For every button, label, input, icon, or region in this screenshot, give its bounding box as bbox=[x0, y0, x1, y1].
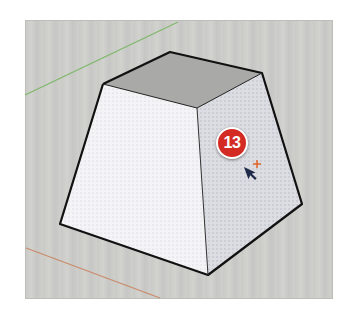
model-scene[interactable] bbox=[0, 0, 356, 319]
red-axis bbox=[26, 248, 160, 298]
step-number-badge: 13 bbox=[216, 127, 248, 159]
